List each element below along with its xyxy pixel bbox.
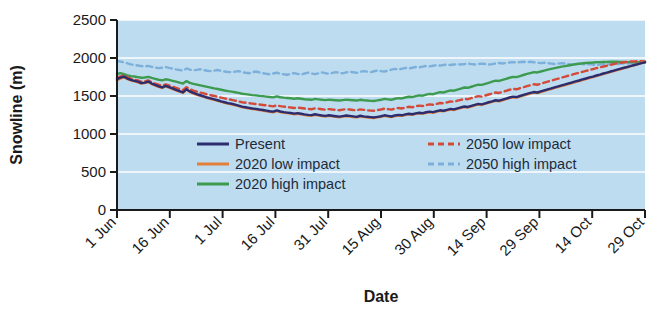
y-axis-tick-label: 2000 [73,49,106,66]
y-axis-ticks-group: 05001000150020002500 [73,11,117,218]
legend-label-present: Present [235,136,285,152]
y-axis-title: Snowline (m) [8,65,25,165]
legend-label-2050-high-impact: 2050 high impact [466,156,576,172]
x-axis-tick-label: 14 Sep [443,213,489,259]
x-axis-tick-label: 1 Jul [190,213,224,247]
y-axis-tick-label: 1500 [73,87,106,104]
y-axis-tick-label: 2500 [73,11,106,28]
x-axis-tick-label: 14 Oct [551,213,595,257]
y-axis-tick-label: 1000 [73,125,106,142]
legend-label-2020-low-impact: 2020 low impact [235,156,340,172]
x-axis-tick-label: 16 Jun [128,213,172,257]
legend-label-2020-high-impact: 2020 high impact [235,176,345,192]
x-axis-ticks-group: 1 Jun16 Jun1 Jul16 Jul31 Jul15 Aug30 Aug… [81,210,648,259]
x-axis-tick-label: 29 Oct [604,213,648,257]
x-axis-title: Date [364,288,399,305]
x-axis-tick-label: 1 Jun [81,213,119,251]
legend-label-2050-low-impact: 2050 low impact [466,136,571,152]
x-axis-tick-label: 31 Jul [290,213,330,253]
chart-canvas: 05001000150020002500 1 Jun16 Jun1 Jul16 … [0,0,669,320]
x-axis-tick-label: 29 Sep [496,213,542,259]
x-axis-tick-label: 30 Aug [391,213,436,258]
x-axis-tick-label: 15 Aug [338,213,383,258]
x-axis-tick-label: 16 Jul [237,213,277,253]
snowline-chart-figure: 05001000150020002500 1 Jun16 Jun1 Jul16 … [0,0,669,320]
y-axis-tick-label: 500 [81,163,106,180]
